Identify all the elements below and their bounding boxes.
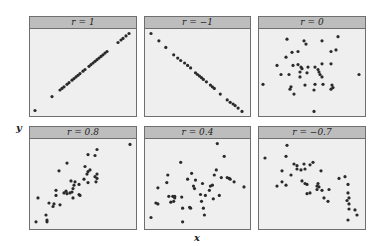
scatter-panel: r = −0.7 (258, 126, 366, 230)
scatter-panel: r = 1 (29, 16, 137, 117)
scatter-panel: r = 0.8 (29, 126, 137, 230)
plot-area (30, 28, 136, 116)
x-axis-label: x (194, 232, 200, 243)
plot-area (30, 138, 136, 229)
scatter-panel: r = 0.4 (144, 126, 251, 230)
y-axis-label: y (16, 122, 22, 133)
plot-area (145, 28, 250, 116)
plot-area (259, 138, 365, 229)
scatter-panel: r = 0 (258, 16, 366, 117)
plot-area (145, 138, 250, 229)
plot-area (259, 28, 365, 116)
scatter-panel: r = −1 (144, 16, 251, 117)
